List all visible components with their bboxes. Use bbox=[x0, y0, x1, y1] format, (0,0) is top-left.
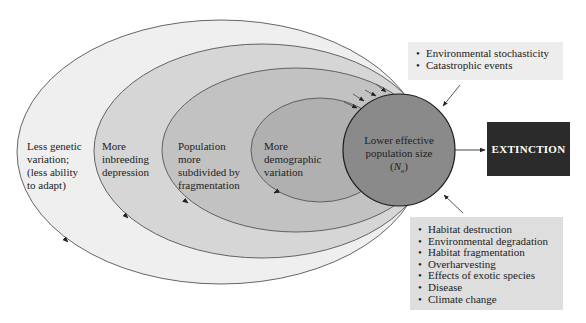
ne-subscript: e bbox=[401, 167, 404, 175]
ring-second-label: More inbreeding depression bbox=[102, 140, 149, 179]
ne-symbol: N bbox=[394, 160, 401, 172]
ring-outer-line: to adapt) bbox=[27, 179, 82, 192]
ring-inner-line: More bbox=[264, 140, 321, 153]
list-item: Habitat destruction bbox=[418, 224, 563, 236]
ring-inner-line: demographic bbox=[264, 153, 321, 166]
bottom-factors-list: Habitat destruction Environmental degrad… bbox=[410, 224, 563, 305]
arrow-bottom-factors bbox=[444, 195, 463, 213]
top-factors-list: Environmental stochasticity Catastrophic… bbox=[408, 48, 563, 71]
center-label: Lower effective population size (Ne) bbox=[349, 134, 449, 178]
ring-third-line: more bbox=[178, 153, 240, 166]
ring-third-line: Population bbox=[178, 140, 240, 153]
ring-outer-line: (less ability bbox=[27, 166, 82, 179]
ring-inner-line: variation bbox=[264, 166, 321, 179]
ring-outer-line: variation; bbox=[27, 153, 82, 166]
center-symbol: (Ne) bbox=[349, 160, 449, 178]
center-line-2: population size bbox=[349, 147, 449, 160]
ring-third-label: Population more subdivided by fragmentat… bbox=[178, 140, 240, 192]
extinction-label: EXTINCTION bbox=[492, 143, 566, 155]
ring-second-line: More bbox=[102, 140, 149, 153]
ring-inner-label: More demographic variation bbox=[264, 140, 321, 179]
list-item: Climate change bbox=[418, 294, 563, 306]
center-line-1: Lower effective bbox=[349, 134, 449, 147]
arrow-top-factors bbox=[443, 85, 460, 106]
list-item: Environmental stochasticity bbox=[416, 48, 563, 60]
list-item: Disease bbox=[418, 282, 563, 294]
ring-second-line: inbreeding bbox=[102, 153, 149, 166]
ring-outer-line: Less genetic bbox=[27, 140, 82, 153]
top-factors-box: Environmental stochasticity Catastrophic… bbox=[408, 42, 563, 80]
extinction-box: EXTINCTION bbox=[487, 122, 570, 176]
ring-third-line: subdivided by bbox=[178, 166, 240, 179]
bottom-factors-box: Habitat destruction Environmental degrad… bbox=[410, 217, 563, 310]
ring-second-line: depression bbox=[102, 166, 149, 179]
ring-third-line: fragmentation bbox=[178, 179, 240, 192]
ring-outer-label: Less genetic variation; (less ability to… bbox=[27, 140, 82, 192]
list-item: Catastrophic events bbox=[416, 60, 563, 72]
